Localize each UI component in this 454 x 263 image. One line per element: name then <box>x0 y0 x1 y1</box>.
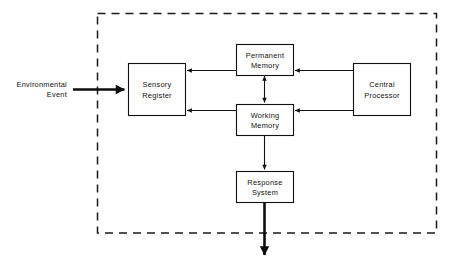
node-permanent-memory-label-line2: Memory <box>251 61 279 70</box>
label-environmental-event-line2: Event <box>47 90 67 99</box>
node-working-memory[interactable]: Working Memory <box>237 105 294 136</box>
label-environmental-event: Environmental Event <box>17 80 68 100</box>
node-sensory-register[interactable]: Sensory Register <box>129 64 186 116</box>
node-permanent-memory[interactable]: Permanent Memory <box>237 45 294 76</box>
node-permanent-memory-label-line1: Permanent <box>246 51 284 60</box>
label-environmental-event-line1: Environmental <box>17 80 68 89</box>
node-sensory-register-label-line1: Sensory <box>143 80 172 89</box>
node-working-memory-label-line2: Memory <box>251 121 279 130</box>
node-response-system[interactable]: Response System <box>237 172 294 203</box>
node-response-system-label-line1: Response <box>247 178 282 187</box>
diagram-canvas: Sensory Register Permanent Memory Workin… <box>0 0 454 263</box>
node-response-system-label-line2: System <box>252 188 278 197</box>
node-central-processor[interactable]: Central Processor <box>354 64 411 116</box>
node-central-processor-label-line1: Central <box>369 80 395 89</box>
node-working-memory-label-line1: Working <box>251 111 280 120</box>
information-processing-diagram: Sensory Register Permanent Memory Workin… <box>0 0 454 263</box>
node-sensory-register-label-line2: Register <box>142 91 172 100</box>
node-central-processor-label-line2: Processor <box>364 91 400 100</box>
